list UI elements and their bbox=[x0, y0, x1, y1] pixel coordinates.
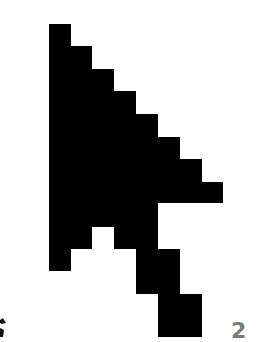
partial-text-right: 2 bbox=[231, 320, 246, 342]
partial-glyph-left bbox=[0, 318, 10, 337]
